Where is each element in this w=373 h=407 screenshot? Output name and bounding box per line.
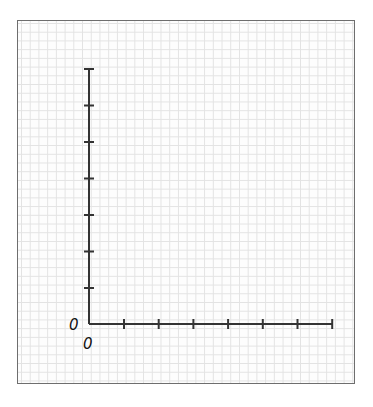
axes-lines [89, 69, 333, 324]
blank-axes: 0 0 [0, 0, 373, 407]
y-origin-label: 0 [69, 316, 79, 334]
x-origin-label: 0 [83, 335, 93, 353]
